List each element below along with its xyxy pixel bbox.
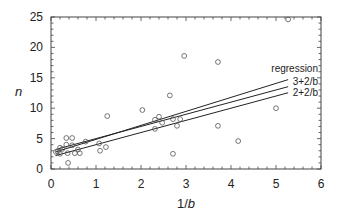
y-tick-label: 5	[36, 132, 43, 146]
data-point	[171, 151, 176, 156]
line-label: regression	[271, 63, 318, 74]
fit-line	[56, 93, 289, 156]
data-point	[274, 106, 279, 111]
line-label: 2+2/b	[293, 87, 319, 98]
data-point	[157, 114, 162, 119]
data-point	[216, 60, 221, 65]
x-tick-label: 4	[228, 177, 235, 191]
x-tick-label: 0	[48, 177, 55, 191]
data-points	[54, 17, 291, 165]
data-point	[178, 117, 183, 122]
y-tick-labels: 0510152025	[30, 10, 44, 176]
y-tick-label: 10	[30, 101, 44, 115]
fit-line	[56, 80, 289, 152]
x-tick-label: 5	[273, 177, 280, 191]
y-tick-label: 0	[36, 162, 43, 176]
y-tick-label: 20	[30, 40, 44, 54]
x-axis-label-var: b	[188, 196, 195, 211]
x-tick-labels: 0123456	[48, 177, 325, 191]
fit-lines	[56, 80, 289, 156]
x-tick-label: 2	[138, 177, 145, 191]
data-point	[167, 93, 172, 98]
x-tick-label: 3	[183, 177, 190, 191]
data-point	[216, 123, 221, 128]
x-axis-label-prefix: 1/	[177, 196, 188, 211]
data-point	[286, 17, 291, 22]
y-axis-label: n	[15, 84, 22, 99]
data-point	[66, 161, 71, 166]
x-tick-label: 6	[318, 177, 325, 191]
data-point	[175, 123, 180, 128]
data-point	[182, 54, 187, 59]
x-axis-label: 1/b	[177, 196, 195, 211]
data-point	[236, 139, 241, 144]
scatter-chart: 0123456 0510152025 regression3+2/b2+2/b …	[0, 0, 343, 220]
y-tick-label: 15	[30, 71, 44, 85]
data-point	[105, 114, 110, 119]
data-point	[64, 136, 69, 141]
data-point	[98, 148, 103, 153]
data-point	[70, 136, 75, 141]
line-label: 3+2/b	[293, 76, 319, 87]
data-point	[104, 145, 109, 150]
line-labels: regression3+2/b2+2/b	[271, 63, 318, 98]
data-point	[140, 108, 145, 113]
x-tick-label: 1	[93, 177, 100, 191]
y-tick-label: 25	[30, 10, 44, 24]
